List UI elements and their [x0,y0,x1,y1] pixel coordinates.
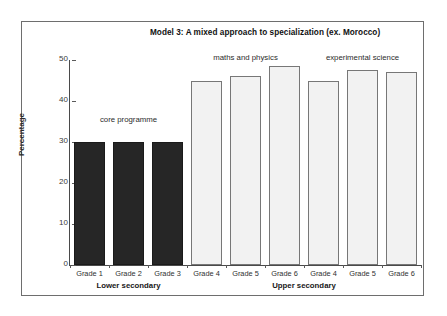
y-axis-label: Percentage [17,80,26,190]
y-axis-tick-label: 0 [64,259,68,268]
bar [191,81,222,266]
x-axis-tick-mark [148,265,149,268]
x-axis-tick-mark [70,265,71,268]
y-axis-tick-label: 10 [59,218,68,227]
y-axis-line [69,60,70,266]
bar [74,142,105,265]
x-axis-tick-mark [382,265,383,268]
x-axis-tick-mark [226,265,227,268]
x-axis-line [69,265,421,266]
bar [230,76,261,265]
x-axis-tick-mark [343,265,344,268]
x-axis-tick-mark [265,265,266,268]
bar [347,70,378,265]
y-axis-tick-mark [72,265,76,266]
y-axis-tick-label: 50 [59,54,68,63]
x-axis-tick-mark [421,265,422,268]
chart-annotation: experimental science [304,53,421,62]
bar [308,81,339,266]
x-axis-tick-mark [187,265,188,268]
chart-annotation: core programme [70,115,187,124]
y-axis-tick: 10 [40,224,76,225]
x-axis-tick-mark [109,265,110,268]
x-axis-group-label: Lower secondary [70,281,187,290]
y-axis-tick: 30 [40,142,76,143]
x-axis-tick-label: Grade 4 [187,269,226,278]
chart-figure: Model 3: A mixed approach to specializat… [0,0,447,316]
bar [386,72,417,265]
y-axis-tick: 40 [40,101,76,102]
x-axis-tick-label: Grade 5 [226,269,265,278]
y-axis-tick-label: 30 [59,136,68,145]
chart-annotation: maths and physics [187,53,304,62]
y-axis-tick-mark [72,60,76,61]
x-axis-tick-label: Grade 2 [109,269,148,278]
bar [113,142,144,265]
y-axis-tick: 20 [40,183,76,184]
y-axis-tick: 50 [40,60,76,61]
x-axis-tick-label: Grade 3 [148,269,187,278]
x-axis-group-label: Upper secondary [187,281,421,290]
y-axis-tick-label: 40 [59,95,68,104]
x-axis-tick-label: Grade 1 [70,269,109,278]
bar [152,142,183,265]
x-axis-tick-label: Grade 6 [382,269,421,278]
x-axis-tick-label: Grade 4 [304,269,343,278]
x-axis-tick-mark [304,265,305,268]
bar [269,66,300,265]
x-axis-tick-label: Grade 6 [265,269,304,278]
y-axis-tick-mark [72,101,76,102]
chart-title: Model 3: A mixed approach to specializat… [150,28,415,37]
x-axis-tick-label: Grade 5 [343,269,382,278]
y-axis-tick-label: 20 [59,177,68,186]
